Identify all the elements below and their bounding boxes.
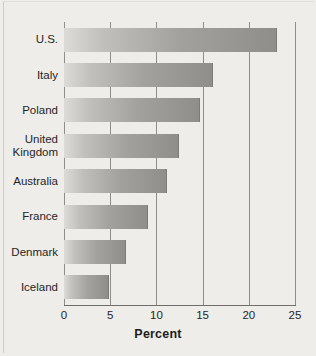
x-axis-line xyxy=(64,305,296,306)
x-tick-label: 15 xyxy=(183,309,223,321)
bar-row xyxy=(64,275,109,299)
bar xyxy=(64,28,277,52)
category-label: United Kingdom xyxy=(0,133,58,158)
bar xyxy=(64,240,126,264)
bar-row xyxy=(64,134,179,158)
x-tick-label: 10 xyxy=(136,309,176,321)
category-label: Australia xyxy=(0,175,58,188)
bar xyxy=(64,275,109,299)
bar-row xyxy=(64,169,167,193)
x-tick-label: 25 xyxy=(275,309,315,321)
bar xyxy=(64,205,148,229)
category-label: France xyxy=(0,210,58,223)
bar-row xyxy=(64,240,126,264)
bar-row xyxy=(64,98,200,122)
bar-row xyxy=(64,63,213,87)
category-label: Iceland xyxy=(0,281,58,294)
bar-row xyxy=(64,28,277,52)
bar-chart-figure: U.S.ItalyPolandUnited KingdomAustraliaFr… xyxy=(0,0,316,356)
category-label: Denmark xyxy=(0,246,58,259)
bar xyxy=(64,169,167,193)
bar xyxy=(64,134,179,158)
plot-area xyxy=(64,22,295,305)
x-tick-label: 0 xyxy=(44,309,84,321)
x-tick-label: 5 xyxy=(90,309,130,321)
category-label: Italy xyxy=(0,69,58,82)
category-label: Poland xyxy=(0,104,58,117)
bar xyxy=(64,63,213,87)
bar xyxy=(64,98,200,122)
gridline-20 xyxy=(249,22,250,305)
category-label: U.S. xyxy=(0,33,58,46)
x-tick-label: 20 xyxy=(229,309,269,321)
x-axis-title: Percent xyxy=(0,327,316,341)
bar-row xyxy=(64,205,148,229)
gridline-25 xyxy=(295,22,296,305)
